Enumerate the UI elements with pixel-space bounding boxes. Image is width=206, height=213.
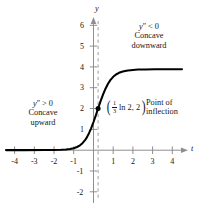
x-tick-label-minus-4: -4	[7, 157, 23, 166]
y-tick-label-6: 6	[76, 21, 88, 30]
coord-ln-expression: ln 2, 2	[119, 103, 140, 112]
annotation-upward-line2: Concave	[6, 108, 80, 117]
x-tick-label-minus-2: -2	[46, 157, 62, 166]
annotation-downward-line3: downward	[112, 41, 186, 50]
annotation-concave-upward: y″ > 0 Concave upward	[6, 99, 80, 127]
y-tick-label-minus-1: -1	[72, 167, 88, 176]
coord-fraction-denominator: 3	[112, 107, 117, 114]
x-axis-arrow	[181, 147, 188, 153]
x-tick-label-2: 2	[127, 157, 139, 166]
x-tick-label-1: 1	[107, 157, 119, 166]
coord-fraction-one-third: 1 3	[112, 100, 117, 114]
x-tick-label-minus-1: -1	[66, 157, 82, 166]
y-axis-label: y	[95, 4, 99, 13]
y-tick-label-4: 4	[76, 63, 88, 72]
annotation-concave-downward: y″ < 0 Concave downward	[112, 22, 186, 50]
inflection-point-marker	[96, 106, 101, 111]
x-axis-label: t	[191, 144, 193, 153]
x-tick-label-minus-3: -3	[26, 157, 42, 166]
x-tick-label-3: 3	[147, 157, 159, 166]
annotation-upward-relation: > 0	[40, 99, 53, 108]
y-tick-label-3: 3	[76, 83, 88, 92]
y-tick-label-minus-2: -2	[72, 188, 88, 197]
annotation-downward-line2: Concave	[112, 31, 186, 40]
annotation-downward-math: y″ < 0	[112, 22, 186, 31]
coord-close-paren: )	[142, 99, 146, 115]
annotation-downward-relation: < 0	[146, 22, 159, 31]
y-tick-label-5: 5	[76, 42, 88, 51]
y-axis-arrow	[91, 17, 97, 24]
coord-open-paren: (	[107, 99, 111, 115]
annotation-point-of-inflection: Point of inflection	[146, 98, 204, 117]
concavity-figure: y t 6 5 4 3 2 1 -1 -2 -4 -3 -2 -1 1 2 3 …	[0, 0, 206, 213]
inflection-point-coordinates: ( 1 3 ln 2, 2 )	[106, 99, 146, 115]
x-tick-label-4: 4	[166, 157, 178, 166]
annotation-poi-line1: Point of	[146, 98, 204, 107]
annotation-poi-line2: inflection	[146, 107, 204, 116]
annotation-upward-math: y″ > 0	[6, 99, 80, 108]
annotation-upward-line3: upward	[6, 118, 80, 127]
